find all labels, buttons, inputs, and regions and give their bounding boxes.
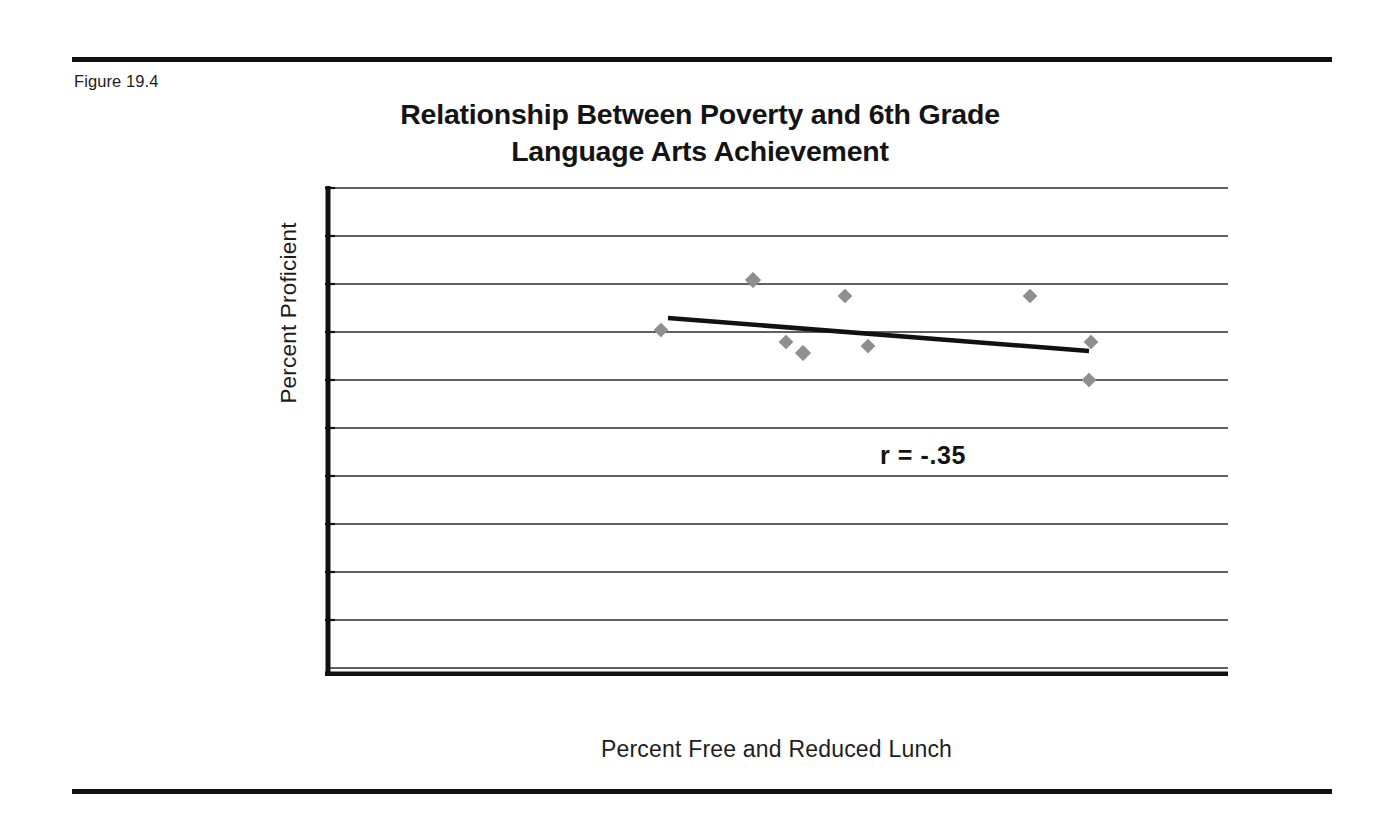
data-point-marker: [1084, 335, 1098, 349]
chart-title-line-2: Language Arts Achievement: [300, 133, 1100, 170]
data-point-marker: [779, 335, 793, 349]
data-point-marker: [838, 289, 852, 303]
figure-page: Figure 19.4 Relationship Between Poverty…: [0, 0, 1389, 830]
data-point-marker: [654, 323, 668, 337]
chart-title: Relationship Between Poverty and 6th Gra…: [300, 96, 1100, 170]
trendline: [668, 318, 1089, 351]
bottom-divider-rule: [72, 789, 1332, 794]
figure-label: Figure 19.4: [74, 72, 159, 91]
scatter-markers-group: [654, 272, 1098, 387]
data-point-marker: [861, 339, 875, 353]
data-point-marker: [1023, 289, 1037, 303]
y-axis-title: Percent Proficient: [276, 188, 302, 438]
top-divider-rule: [72, 57, 1332, 62]
correlation-annotation: r = -.35: [880, 441, 966, 470]
chart-title-line-1: Relationship Between Poverty and 6th Gra…: [300, 96, 1100, 133]
data-point-marker: [1082, 373, 1096, 387]
gridlines-group: [327, 188, 1228, 668]
x-axis-title: Percent Free and Reduced Lunch: [325, 736, 1228, 763]
plot-area: [325, 186, 1228, 676]
data-point-marker: [795, 345, 811, 361]
scatter-plot-svg: [325, 186, 1228, 676]
data-point-marker: [745, 272, 761, 288]
